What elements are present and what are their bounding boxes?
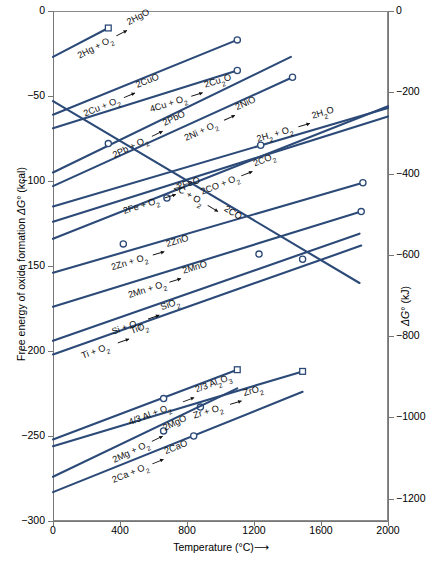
series-line [53, 234, 360, 341]
reaction-products: 2CuO [134, 72, 160, 90]
reaction-label: 2CO + O22CO2 [197, 151, 281, 199]
reaction-reactants: Ti + O2 [80, 342, 111, 363]
line-end-square-marker [300, 369, 306, 375]
line-end-circle-marker [289, 74, 295, 80]
ellingham-diagram: 0−50−100−150−200−250−3000−200−400−600−80… [0, 0, 446, 569]
reaction-products: 2CaO [163, 438, 189, 456]
reaction-reactants: Zr + O2 [192, 402, 225, 423]
series-line [53, 369, 306, 447]
data-point-marker [161, 396, 167, 402]
data-point-marker [120, 241, 126, 247]
reaction-label: 2Ni + O22NiO [180, 94, 261, 145]
reaction-reactants: 2H2 + O2 [256, 124, 295, 146]
reaction-arrowhead-icon [125, 337, 129, 342]
series-line [53, 108, 388, 207]
reaction-reactants: 2CO + O2 [199, 172, 241, 199]
reaction-products: 2MnO [181, 259, 208, 276]
reaction-label: 2Hg + O22HgO [73, 7, 156, 63]
reaction-arrowhead-icon [123, 29, 128, 34]
line-end-circle-marker [360, 180, 366, 186]
data-point-marker [300, 256, 306, 262]
reaction-products: 2H2O [310, 105, 335, 123]
data-point-marker [191, 433, 197, 439]
plot-lines-layer: 2Hg + O22HgO2Cu + O22CuO4Cu + O22Cu2O2Pb… [0, 0, 446, 569]
line-end-circle-marker [234, 37, 240, 43]
reaction-arrowhead-icon [159, 129, 164, 134]
reaction-arrowhead-icon [199, 91, 203, 96]
reaction-products: 2ZnO [165, 233, 190, 249]
reaction-products: 2MgO [161, 413, 188, 433]
reaction-products: ZrO2 [242, 383, 265, 401]
reaction-products: 2Cu2O [203, 72, 233, 92]
reaction-arrowhead-icon [160, 458, 165, 463]
line-end-circle-marker [358, 209, 364, 215]
series-line [53, 246, 361, 355]
reaction-products: SiO2 [159, 296, 181, 314]
data-point-marker [105, 141, 111, 147]
reaction-reactants: 2Ca + O2 [111, 461, 151, 487]
reaction-arrowhead-icon [249, 170, 254, 175]
reaction-arrowhead-icon [159, 434, 164, 439]
data-point-marker [256, 251, 262, 257]
line-end-square-marker [234, 367, 240, 373]
reaction-arrowhead-icon [131, 91, 136, 96]
reaction-products: 2CO2 [252, 151, 278, 171]
reaction-label: 2Pb + O22PbO [108, 109, 191, 163]
reaction-products: 2HgO [125, 7, 151, 27]
series-line [53, 116, 388, 221]
reaction-arrowhead-icon [172, 193, 176, 198]
reaction-arrowhead-icon [231, 114, 236, 119]
line-end-circle-marker [234, 67, 240, 73]
series-line [53, 388, 237, 476]
reaction-arrowhead-icon [190, 396, 195, 401]
reaction-products: 2PbO [161, 109, 187, 128]
reaction-arrowhead-icon [177, 277, 181, 282]
reaction-reactants: 2Ni + O2 [183, 119, 220, 145]
reaction-reactants: 2Hg + O2 [76, 34, 116, 63]
line-end-square-marker [105, 25, 111, 31]
reaction-reactants: 2Mg + O2 [111, 439, 152, 467]
reaction-products: 2NiO [234, 94, 257, 112]
reaction-arrowhead-icon [214, 208, 219, 213]
series-line [53, 195, 364, 307]
